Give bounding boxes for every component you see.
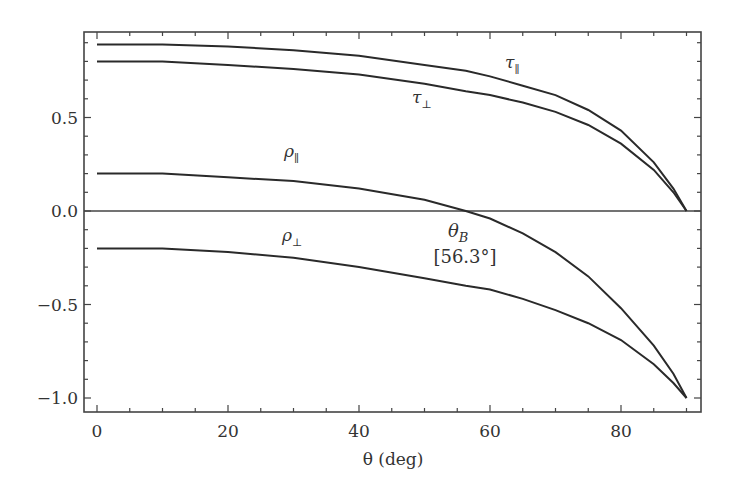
x-tick-label: 80 <box>610 421 632 441</box>
brewster-angle-symbol: θB <box>448 220 468 245</box>
curves <box>97 45 687 398</box>
y-tick-labels: −1.0−0.50.00.5 <box>37 108 78 409</box>
y-tick-label: −0.5 <box>37 295 78 315</box>
curve-ρ-⊥ <box>97 248 687 398</box>
y-tick-label: 0.5 <box>51 108 78 128</box>
curve-ρ-∥ <box>97 174 687 398</box>
brewster-angle-value: [56.3°] <box>433 246 496 267</box>
curve-label: ρ∥ <box>283 141 299 165</box>
axis-ticks <box>84 32 701 412</box>
curve-τ-⊥ <box>97 61 687 211</box>
curve-τ-∥ <box>97 45 687 211</box>
curve-label: τ⊥ <box>412 87 432 111</box>
x-tick-label: 20 <box>217 421 239 441</box>
x-tick-labels: 020406080 <box>92 421 632 441</box>
y-tick-label: 0.0 <box>51 201 78 221</box>
curve-label: ρ⊥ <box>281 225 302 249</box>
curve-label: τ∥ <box>505 52 520 76</box>
fresnel-coefficients-chart: 020406080 −1.0−0.50.00.5 θ (deg) τ∥τ⊥ρ∥ρ… <box>0 0 737 493</box>
x-tick-label: 60 <box>479 421 501 441</box>
x-axis-label: θ (deg) <box>363 449 424 469</box>
curve-labels: τ∥τ⊥ρ∥ρ⊥ <box>281 52 520 249</box>
brewster-annotation: θB[56.3°] <box>433 220 496 267</box>
y-tick-label: −1.0 <box>37 388 78 408</box>
x-tick-label: 0 <box>92 421 103 441</box>
x-tick-label: 40 <box>348 421 370 441</box>
plot-frame <box>84 32 701 412</box>
